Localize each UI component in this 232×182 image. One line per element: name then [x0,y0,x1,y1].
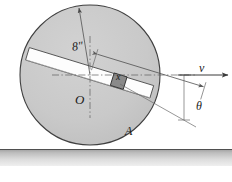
slider-block-label: A [125,125,132,137]
velocity-label: v [199,62,204,74]
angle-theta-label: θ [196,100,202,112]
mechanics-figure: 8″ x O A v θ [0,0,232,182]
radius-label: 8″ [71,39,84,52]
x-extension-right [201,82,206,99]
x-distance-label: x [116,72,120,82]
ground-band [0,149,232,166]
figure-canvas [0,0,232,182]
center-point-label: O [75,93,84,106]
ground-group [0,149,232,166]
